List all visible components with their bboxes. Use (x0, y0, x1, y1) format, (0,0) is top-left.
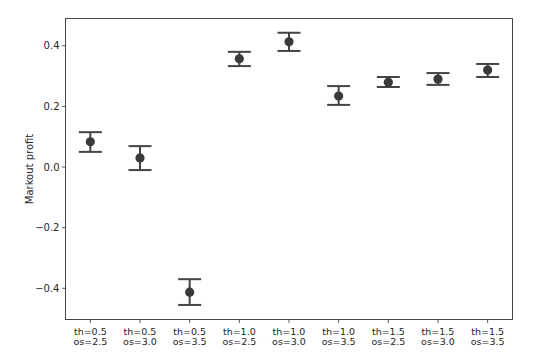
x-axis-ticks: th=0.5os=2.5th=0.5os=3.0th=0.5os=3.5th=1… (73, 320, 504, 348)
plot-area-frame (66, 19, 513, 320)
data-point-group (327, 86, 350, 105)
y-tick-label: 0.0 (44, 162, 60, 173)
x-tick-label: os=2.5 (371, 336, 405, 347)
x-tick-label: os=3.0 (123, 336, 157, 347)
y-tick-label: −0.4 (35, 283, 59, 294)
data-points (79, 33, 499, 305)
data-point-marker (235, 54, 244, 63)
x-tick-label: th=1.0 (223, 326, 256, 337)
x-tick-label: th=0.5 (74, 326, 107, 337)
y-tick-label: −0.2 (35, 222, 59, 233)
x-tick-label: os=3.0 (421, 336, 455, 347)
chart-canvas: Markout profit 0.40.20.0−0.2−0.4 th=0.5o… (0, 0, 533, 361)
data-point-marker (483, 65, 492, 74)
y-axis-title: Markout profit (24, 134, 35, 205)
data-point-marker (384, 78, 393, 87)
x-tick-label: os=3.5 (322, 336, 356, 347)
y-axis-ticks: 0.40.20.0−0.2−0.4 (35, 40, 65, 293)
data-point-marker (334, 91, 343, 100)
x-tick-label: th=1.0 (273, 326, 306, 337)
data-point-group (427, 73, 450, 85)
x-tick-label: os=2.5 (222, 336, 256, 347)
x-tick-label: th=1.0 (322, 326, 355, 337)
x-tick-label: th=1.5 (471, 326, 504, 337)
data-point-group (79, 132, 102, 152)
data-point-group (377, 77, 400, 87)
data-point-marker (86, 137, 95, 146)
x-tick-label: th=0.5 (173, 326, 206, 337)
data-point-marker (135, 153, 144, 162)
data-point-group (278, 33, 301, 51)
data-point-group (129, 146, 152, 170)
x-tick-label: th=1.5 (372, 326, 405, 337)
x-tick-label: os=2.5 (73, 336, 107, 347)
x-tick-label: th=1.5 (422, 326, 455, 337)
data-point-marker (185, 288, 194, 297)
y-axis-label: Markout profit (24, 134, 35, 205)
data-point-group (476, 64, 499, 77)
data-point-group (228, 52, 251, 66)
x-tick-label: os=3.0 (272, 336, 306, 347)
data-point-group (178, 279, 201, 305)
x-tick-label: os=3.5 (173, 336, 207, 347)
x-tick-label: os=3.5 (471, 336, 505, 347)
y-tick-label: 0.2 (44, 101, 60, 112)
data-point-marker (284, 37, 293, 46)
y-tick-label: 0.4 (44, 40, 60, 51)
data-point-marker (433, 75, 442, 84)
x-tick-label: th=0.5 (124, 326, 157, 337)
